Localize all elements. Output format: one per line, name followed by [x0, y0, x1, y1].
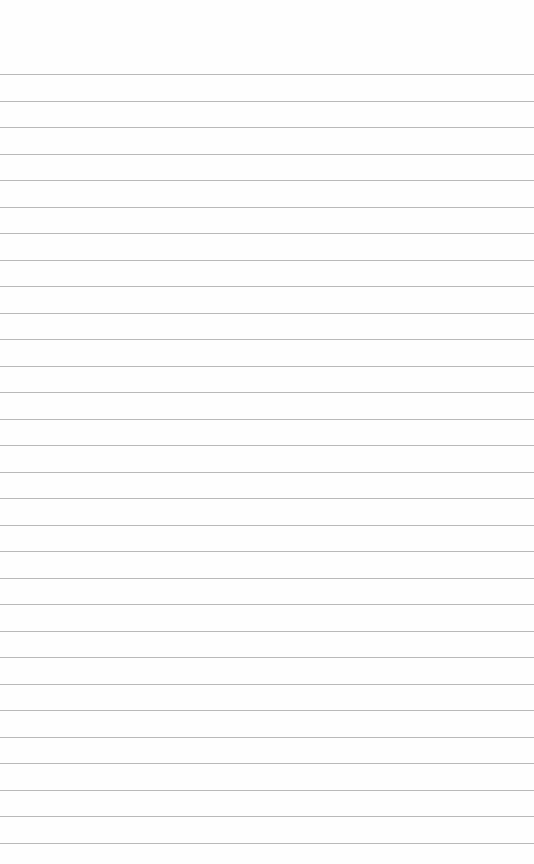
ruled-line — [0, 180, 534, 181]
ruled-line — [0, 127, 534, 128]
ruled-line — [0, 684, 534, 685]
ruled-line — [0, 498, 534, 499]
ruled-line — [0, 763, 534, 764]
ruled-line — [0, 286, 534, 287]
ruled-line — [0, 419, 534, 420]
ruled-line — [0, 604, 534, 605]
ruled-line — [0, 578, 534, 579]
ruled-line — [0, 710, 534, 711]
ruled-line — [0, 843, 534, 844]
ruled-line — [0, 790, 534, 791]
ruled-line — [0, 101, 534, 102]
ruled-line — [0, 313, 534, 314]
ruled-line — [0, 339, 534, 340]
ruled-line — [0, 74, 534, 75]
ruled-line — [0, 207, 534, 208]
ruled-line — [0, 657, 534, 658]
ruled-line — [0, 631, 534, 632]
ruled-line — [0, 816, 534, 817]
ruled-line — [0, 472, 534, 473]
ruled-line — [0, 525, 534, 526]
ruled-line — [0, 260, 534, 261]
ruled-line — [0, 737, 534, 738]
ruled-line — [0, 551, 534, 552]
ruled-line — [0, 366, 534, 367]
ruled-page — [0, 0, 534, 864]
ruled-line — [0, 233, 534, 234]
ruled-line — [0, 392, 534, 393]
ruled-line — [0, 154, 534, 155]
ruled-line — [0, 445, 534, 446]
